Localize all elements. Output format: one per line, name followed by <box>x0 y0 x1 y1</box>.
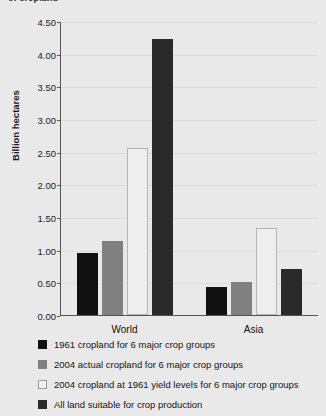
y-axis-tickmark <box>57 120 60 121</box>
legend-swatch <box>38 360 47 369</box>
y-axis-tick-label: 3.00 <box>38 115 57 126</box>
y-axis-tickmark <box>57 316 60 317</box>
y-axis-tick-label: 4.00 <box>38 49 57 60</box>
legend-swatch <box>38 340 47 349</box>
bar <box>77 253 98 315</box>
legend-swatch <box>38 380 47 389</box>
gridline <box>61 87 318 88</box>
y-axis-line <box>60 22 61 316</box>
y-axis-tickmark <box>57 283 60 284</box>
bar <box>127 148 148 315</box>
y-axis-tick-label: 3.50 <box>38 82 57 93</box>
gridline <box>61 22 318 23</box>
bar <box>231 282 252 315</box>
gridline <box>61 283 318 284</box>
legend-label: 2004 cropland at 1961 yield levels for 6… <box>54 379 299 390</box>
gridline <box>61 55 318 56</box>
legend-item: 2004 cropland at 1961 yield levels for 6… <box>38 374 326 394</box>
y-axis-tickmark <box>57 153 60 154</box>
y-axis-tick-label: 0.50 <box>38 278 57 289</box>
gridline <box>61 218 318 219</box>
gridline <box>61 153 318 154</box>
y-axis-tickmark <box>57 87 60 88</box>
chart-figure: of cropland Billion hectares 4.504.003.5… <box>0 0 326 416</box>
y-axis-tick-label: 0.00 <box>38 311 57 322</box>
legend-item: All land suitable for crop production <box>38 394 326 414</box>
legend-item: 1961 cropland for 6 major crop groups <box>38 334 326 354</box>
bar <box>102 241 123 315</box>
y-axis-title: Billion hectares <box>10 66 21 186</box>
legend-swatch <box>38 400 47 409</box>
y-axis-tickmark <box>57 218 60 219</box>
bar <box>256 228 277 315</box>
bar <box>152 39 173 315</box>
y-axis-tickmark <box>57 251 60 252</box>
y-axis-tick-label: 1.00 <box>38 245 57 256</box>
y-axis-tick-label: 4.50 <box>38 17 57 28</box>
legend-label: All land suitable for crop production <box>54 399 202 410</box>
chart-legend: 1961 cropland for 6 major crop groups200… <box>38 334 326 414</box>
y-axis-tickmark <box>57 185 60 186</box>
bar <box>206 287 227 315</box>
plot-area: 4.504.003.503.002.502.001.501.000.500.00… <box>60 22 318 316</box>
legend-label: 1961 cropland for 6 major crop groups <box>54 339 215 350</box>
y-axis-tick-label: 2.00 <box>38 180 57 191</box>
legend-item: 2004 actual cropland for 6 major crop gr… <box>38 354 326 374</box>
y-axis-tickmark <box>57 55 60 56</box>
gridline <box>61 120 318 121</box>
gridline <box>61 251 318 252</box>
y-axis-tickmark <box>57 22 60 23</box>
gridline <box>61 185 318 186</box>
x-axis-line <box>60 315 318 316</box>
y-axis-tick-label: 1.50 <box>38 213 57 224</box>
legend-label: 2004 actual cropland for 6 major crop gr… <box>54 359 243 370</box>
bar <box>281 269 302 315</box>
figure-title: of cropland <box>8 0 58 3</box>
y-axis-tick-label: 2.50 <box>38 147 57 158</box>
